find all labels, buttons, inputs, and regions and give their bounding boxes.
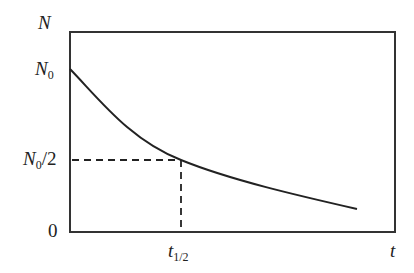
y-tick-zero: 0: [48, 220, 58, 242]
plot-frame: [70, 32, 395, 232]
x-axis-label: t: [390, 240, 395, 262]
decay-chart: [0, 0, 414, 273]
y-axis-label: N: [38, 12, 51, 34]
x-tick-half-life: t1/2: [168, 240, 189, 265]
y-tick-n0: N0: [35, 58, 54, 83]
y-tick-n0-half: N0/2: [23, 148, 56, 173]
decay-curve: [70, 69, 357, 209]
